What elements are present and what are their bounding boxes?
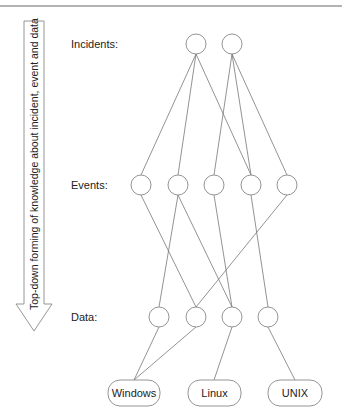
top-down-arrow: Top-down forming of knowledge about inci… bbox=[16, 18, 52, 331]
source-node-linux: Linux bbox=[188, 380, 241, 406]
knowledge-hierarchy-diagram: Top-down forming of knowledge about inci… bbox=[0, 0, 342, 420]
arrow-label: Top-down forming of knowledge about inci… bbox=[28, 18, 40, 310]
level-label-data: Data: bbox=[71, 311, 97, 323]
incident-node-i2 bbox=[222, 34, 242, 54]
event-node-e1 bbox=[131, 175, 151, 195]
event-node-e3 bbox=[204, 175, 224, 195]
edge-D2-windows bbox=[134, 327, 196, 380]
edges bbox=[134, 54, 295, 380]
edge-I2-E4 bbox=[232, 54, 251, 175]
edge-I1-E2 bbox=[178, 54, 196, 175]
source-node-unix: UNIX bbox=[268, 380, 322, 406]
edge-I2-E3 bbox=[214, 54, 232, 175]
data-node-d4 bbox=[258, 307, 278, 327]
edge-E3-D3 bbox=[214, 195, 232, 307]
incident-node-i1 bbox=[186, 34, 206, 54]
event-node-e4 bbox=[241, 175, 261, 195]
edge-E2-D1 bbox=[159, 195, 178, 307]
edge-D4-unix bbox=[268, 327, 295, 380]
data-node-d2 bbox=[186, 307, 206, 327]
level-label-events: Events: bbox=[71, 179, 108, 191]
edge-D1-windows bbox=[134, 327, 159, 380]
data-node-d3 bbox=[222, 307, 242, 327]
level-label-incidents: Incidents: bbox=[71, 38, 118, 50]
event-node-e2 bbox=[168, 175, 188, 195]
source-label: Linux bbox=[201, 387, 228, 399]
edge-I2-E5 bbox=[232, 54, 287, 175]
data-node-d1 bbox=[149, 307, 169, 327]
edge-E4-D4 bbox=[251, 195, 268, 307]
edge-D3-linux bbox=[214, 327, 232, 380]
source-nodes: WindowsLinuxUNIX bbox=[108, 380, 322, 406]
edge-E2-D3 bbox=[178, 195, 232, 307]
event-node-e5 bbox=[277, 175, 297, 195]
edge-I1-E4 bbox=[196, 54, 251, 175]
source-label: Windows bbox=[112, 387, 157, 399]
nodes bbox=[131, 34, 297, 327]
source-label: UNIX bbox=[282, 387, 309, 399]
edge-I1-E1 bbox=[141, 54, 196, 175]
source-node-windows: Windows bbox=[108, 380, 160, 406]
edge-E5-D2 bbox=[196, 195, 287, 307]
